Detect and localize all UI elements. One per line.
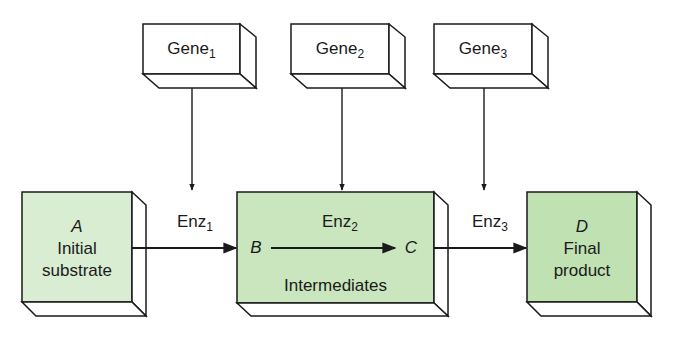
product-line2: product	[527, 260, 637, 282]
enzyme-3-label: Enz3	[455, 211, 525, 233]
enzyme-1-label: Enz1	[160, 211, 230, 233]
intermediate-c: C	[400, 237, 422, 259]
gene-3-label: Gene3	[434, 38, 532, 60]
product-line1: Final	[527, 238, 637, 260]
substrate-letter: A	[22, 216, 132, 238]
intermediate-b: B	[246, 237, 266, 259]
intermediates-label: Intermediates	[237, 275, 434, 297]
gene-1-label: Gene1	[143, 38, 240, 60]
gene-2-label: Gene2	[291, 38, 389, 60]
substrate-line2: substrate	[22, 260, 132, 282]
product-letter: D	[527, 216, 637, 238]
enzyme-2-label: Enz2	[305, 211, 375, 233]
substrate-line1: Initial	[22, 238, 132, 260]
